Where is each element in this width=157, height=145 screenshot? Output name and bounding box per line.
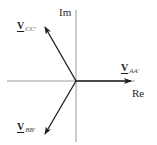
phasor-diagram: Im Re VCC' VAA' VBB' (0, 0, 157, 145)
phasor-arrow-vcc (45, 27, 76, 81)
phasor-subscript: CC' (25, 25, 36, 33)
phasor-subscript: BB' (25, 126, 35, 134)
phasor-arrow-vbb (45, 81, 76, 134)
phasor-symbol: V (17, 121, 24, 132)
phasor-label-vaa: VAA' (121, 61, 139, 74)
phasor-subscript: AA' (129, 67, 139, 75)
phasor-symbol: V (121, 62, 128, 73)
phasor-symbol: V (17, 20, 24, 31)
imaginary-axis-label: Im (59, 7, 71, 18)
real-axis-label: Re (132, 88, 144, 99)
phasor-label-vbb: VBB' (17, 120, 35, 133)
phasor-label-vcc: VCC' (17, 19, 36, 32)
